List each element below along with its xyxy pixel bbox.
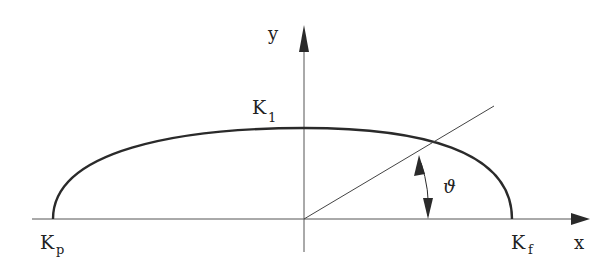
ellipse-diagram: y x K 1 K p K f ϑ [0, 0, 612, 268]
radius-line [304, 106, 494, 219]
svg-text:K: K [252, 96, 267, 118]
y-axis-arrow-icon [299, 25, 309, 52]
angle-arrow-down-icon [423, 198, 433, 219]
y-axis-label: y [267, 23, 279, 44]
x-axis-label: x [574, 232, 584, 253]
svg-text:K: K [511, 231, 526, 253]
point-label-top: K 1 [252, 96, 276, 125]
angle-arc [414, 155, 433, 219]
ellipse-curve [53, 128, 512, 219]
y-axis [299, 25, 309, 252]
point-label-right: K f [511, 231, 534, 257]
svg-text:1: 1 [268, 110, 276, 125]
svg-text:p: p [56, 242, 64, 257]
x-axis-arrow-icon [571, 213, 590, 225]
angle-label: ϑ [443, 176, 456, 197]
svg-text:K: K [40, 231, 55, 253]
point-label-left: K p [40, 231, 64, 257]
svg-text:f: f [528, 242, 534, 257]
angle-arrow-up-icon [414, 155, 425, 176]
